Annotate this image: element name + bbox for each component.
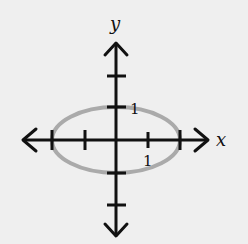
y-axis-label: y (109, 13, 121, 34)
y-tick-label-1: 1 (130, 100, 140, 118)
x-axis-label: x (216, 129, 226, 150)
coordinate-plane: y x 1 1 (0, 0, 248, 244)
x-tick-label-1: 1 (143, 152, 153, 170)
ellipse-diagram: y x 1 1 (0, 0, 248, 244)
